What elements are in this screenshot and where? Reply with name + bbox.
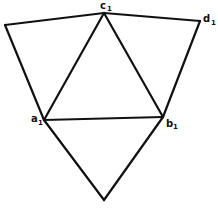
- label-c-subscript: 1: [107, 5, 112, 13]
- tetrahedron-net-diagram: c 1 d 1 a 1 b 1: [0, 0, 218, 211]
- vertex-label-b1: b 1: [166, 118, 178, 131]
- vertex-label-d1: d 1: [203, 13, 216, 27]
- edge-d1-b1: [163, 21, 200, 117]
- edge-a1-b1: [44, 117, 163, 120]
- label-b-subscript: 1: [173, 123, 178, 131]
- diagram-canvas: c 1 d 1 a 1 b 1: [0, 0, 218, 211]
- edge-topleft-a1: [5, 25, 44, 120]
- label-d-letter: d: [203, 13, 210, 24]
- edge-a1-bottom: [44, 120, 104, 200]
- edge-b1-bottom: [104, 117, 163, 200]
- edge-c1-d1: [104, 13, 200, 21]
- edge-c1-b1: [104, 13, 163, 117]
- label-d-subscript: 1: [211, 19, 216, 27]
- label-c-letter: c: [100, 0, 106, 11]
- label-a-subscript: 1: [38, 119, 43, 127]
- label-a-letter: a: [31, 113, 38, 124]
- vertex-label-c1: c 1: [100, 0, 112, 13]
- edge-topleft-c1: [5, 13, 104, 25]
- edge-a1-c1: [44, 13, 104, 120]
